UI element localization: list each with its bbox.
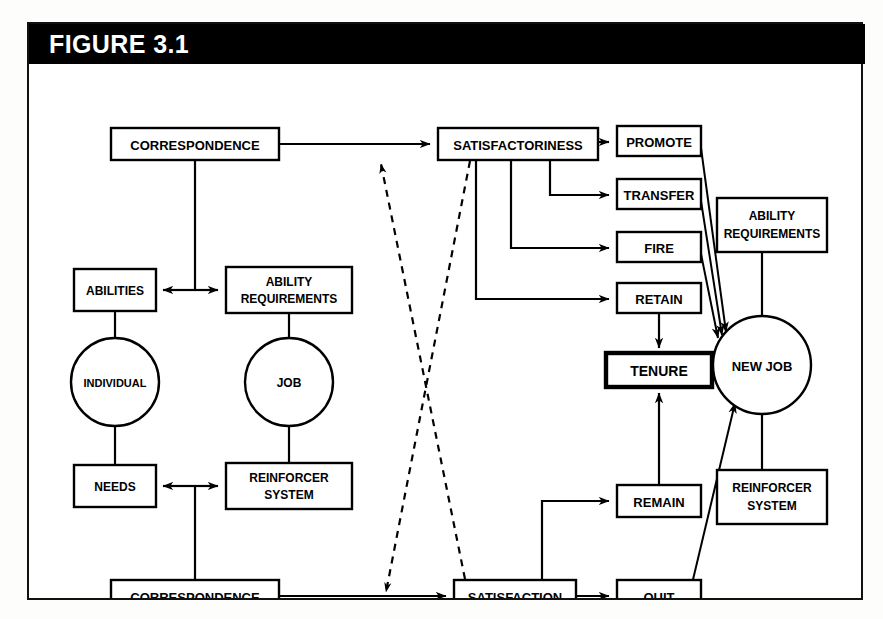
figure-header-bar: FIGURE 3.1 — [29, 24, 865, 64]
edge-corr-top-junction — [163, 160, 218, 290]
figure-frame: FIGURE 3.1 — [27, 22, 863, 600]
node-label-line1: REINFORCER — [249, 471, 329, 485]
node-label: TENURE — [630, 363, 688, 379]
node-label: QUIT — [643, 590, 674, 599]
node-job[interactable]: JOB — [245, 338, 333, 426]
node-label: NEEDS — [94, 480, 135, 494]
node-new-job[interactable]: NEW JOB — [713, 316, 811, 414]
node-label: SATISFACTORINESS — [453, 138, 583, 153]
node-individual[interactable]: INDIVIDUAL — [71, 338, 159, 426]
node-label: ABILITIES — [86, 284, 144, 298]
node-label-line1: REINFORCER — [732, 481, 812, 495]
node-needs[interactable]: NEEDS — [74, 465, 156, 507]
node-correspondence-top[interactable]: CORRESPONDENCE — [111, 128, 279, 160]
node-remain[interactable]: REMAIN — [617, 485, 701, 517]
node-ability-requirements-right[interactable]: ABILITY REQUIREMENTS — [717, 198, 827, 252]
node-fire[interactable]: FIRE — [617, 232, 701, 262]
node-satisfactoriness[interactable]: SATISFACTORINESS — [438, 128, 598, 160]
node-transfer[interactable]: TRANSFER — [617, 179, 701, 209]
edge-satisfactoriness-retain — [476, 160, 609, 299]
node-correspondence-bottom[interactable]: CORRESPONDENCE — [111, 580, 279, 598]
work-adjustment-flowchart: CORRESPONDENCE SATISFACTORINESS PROMOTE … — [29, 64, 861, 598]
edge-corr-bot-junction — [163, 486, 218, 580]
node-label-line2: SYSTEM — [747, 499, 796, 513]
node-ability-requirements-left[interactable]: ABILITY REQUIREMENTS — [226, 267, 352, 313]
node-label: JOB — [277, 376, 302, 390]
edge-satisfaction-to-correspondence-dashed — [381, 164, 465, 579]
node-label: REMAIN — [633, 495, 684, 510]
node-label: RETAIN — [635, 292, 682, 307]
node-label-line1: ABILITY — [266, 275, 313, 289]
node-label: PROMOTE — [626, 135, 692, 150]
node-reinforcer-system-right[interactable]: REINFORCER SYSTEM — [717, 470, 827, 524]
node-label: INDIVIDUAL — [84, 377, 147, 389]
node-quit[interactable]: QUIT — [617, 580, 701, 598]
node-label-line2: SYSTEM — [264, 488, 313, 502]
node-label: SATISFACTION — [468, 590, 562, 599]
edge-satisfactoriness-fire — [511, 160, 609, 248]
node-label-line1: ABILITY — [749, 209, 796, 223]
edge-satisfactoriness-to-correspondence-dashed — [386, 161, 470, 592]
edge-satisfactoriness-transfer — [550, 160, 609, 195]
figure-title: FIGURE 3.1 — [49, 29, 189, 59]
node-label: NEW JOB — [732, 359, 793, 374]
node-promote[interactable]: PROMOTE — [617, 126, 701, 156]
node-label: TRANSFER — [624, 188, 695, 203]
node-label: CORRESPONDENCE — [130, 138, 260, 153]
node-label: CORRESPONDENCE — [130, 590, 260, 599]
node-tenure[interactable]: TENURE — [606, 353, 712, 387]
node-retain[interactable]: RETAIN — [617, 283, 701, 313]
edge-satisfaction-remain — [542, 501, 609, 580]
node-label-line2: REQUIREMENTS — [241, 292, 338, 306]
node-abilities[interactable]: ABILITIES — [74, 269, 156, 311]
node-satisfaction[interactable]: SATISFACTION — [454, 580, 576, 598]
node-reinforcer-system-left[interactable]: REINFORCER SYSTEM — [226, 463, 352, 509]
node-label-line2: REQUIREMENTS — [724, 227, 821, 241]
screenshot-stage: FIGURE 3.1 — [0, 0, 883, 619]
node-label: FIRE — [644, 241, 674, 256]
